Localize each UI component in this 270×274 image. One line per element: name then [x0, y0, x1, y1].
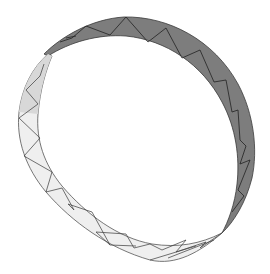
ring-render: 3D rendered triangulated ring band (twis…: [0, 0, 270, 274]
ring-mesh: [0, 0, 270, 274]
ring-front-shade: [19, 54, 52, 114]
front-face-mesh-edges: [19, 64, 222, 260]
ring-front-face: [18, 54, 222, 261]
back-face-mesh-edges: [60, 17, 250, 212]
